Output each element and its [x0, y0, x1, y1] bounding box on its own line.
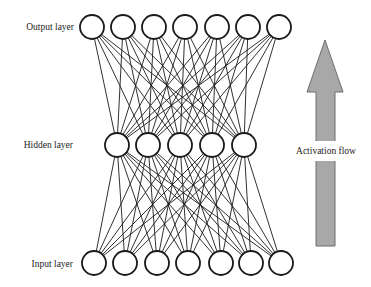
input-neuron	[239, 251, 263, 275]
input-neuron	[145, 251, 169, 275]
activation-flow-label: Activation flow	[296, 146, 356, 156]
connection-line	[117, 145, 188, 263]
hidden-neuron	[136, 133, 160, 157]
output-neuron	[205, 15, 229, 39]
input-neuron	[269, 251, 293, 275]
connection-line	[92, 27, 117, 145]
output-layer-label: Output layer	[26, 22, 75, 32]
activation-flow-arrow: Activation flow	[291, 40, 361, 246]
hidden-neuron	[168, 133, 192, 157]
neural-network-diagram: Output layer Hidden layer Input layer Ac…	[0, 0, 371, 287]
output-neuron	[267, 15, 291, 39]
output-neuron	[80, 15, 104, 39]
connection-line	[244, 27, 248, 145]
output-neuron	[142, 15, 166, 39]
hidden-neuron	[232, 133, 256, 157]
hidden-layer-label: Hidden layer	[24, 140, 74, 150]
connection-line	[212, 145, 281, 263]
hidden-neuron	[105, 133, 129, 157]
connection-line	[117, 145, 221, 263]
input-neuron	[82, 251, 106, 275]
connection-line	[244, 27, 279, 145]
connection-line	[180, 27, 279, 145]
connection-line	[212, 27, 279, 145]
output-neuron	[111, 15, 135, 39]
hidden-neuron	[200, 133, 224, 157]
connection-line	[117, 145, 125, 263]
input-neuron	[176, 251, 200, 275]
output-neuron	[173, 15, 197, 39]
connection-line	[92, 27, 148, 145]
input-layer-label: Input layer	[32, 259, 74, 269]
connection-line	[94, 145, 117, 263]
input-neuron	[113, 251, 137, 275]
input-neuron	[209, 251, 233, 275]
output-neuron	[236, 15, 260, 39]
connection-line	[212, 145, 221, 263]
